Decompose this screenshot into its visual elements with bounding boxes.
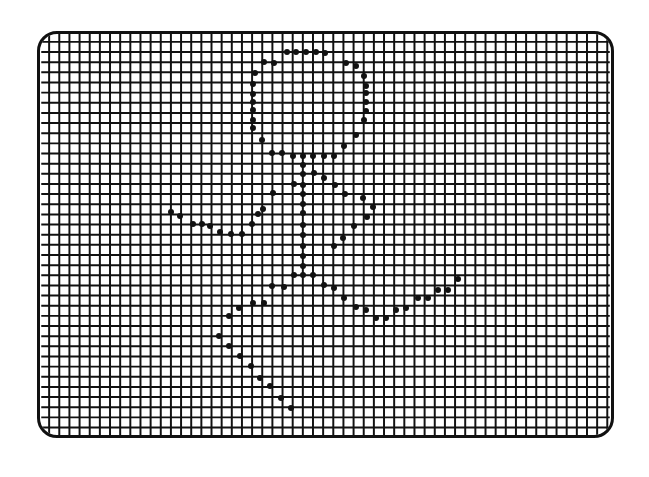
figure-dot [455,276,461,282]
figure-dot [342,191,348,197]
figure-dot [226,343,232,349]
figure-dot [321,175,327,181]
figure-dot [291,272,297,278]
figure-dot [322,50,328,56]
figure-dot [341,295,347,301]
figure-dot [321,282,327,288]
grid-frame [37,31,614,438]
figure-dot [278,395,284,401]
figure-dot [290,153,296,159]
figure-dot [269,150,275,156]
figure-dot [226,313,232,319]
figure-dot [415,295,421,301]
figure-dot [177,213,183,219]
figure-dot [293,49,299,55]
figure-dot [363,108,369,114]
figure-dot [311,170,317,176]
grid-lines [40,34,611,435]
figure-dot [331,285,337,291]
figure-dot [341,143,347,149]
figure-dot [250,300,256,306]
figure-dot [393,307,399,313]
figure-dot [236,305,242,311]
figure-dot [300,201,306,207]
figure-dot [168,209,174,215]
figure-dot [353,304,359,310]
figure-dot [363,99,369,105]
figure-dot [250,91,256,97]
figure-dot [373,315,379,321]
figure-dot [343,60,349,66]
figure-dot [279,150,285,156]
figure-dot [361,73,367,79]
figure-dot [248,363,254,369]
figure-dot [207,223,213,229]
figure-dot [300,272,306,278]
figure-dot [340,235,346,241]
figure-dot [269,283,275,289]
figure-dot [300,243,306,249]
figure-dot [217,229,223,235]
figure-dot [199,221,205,227]
figure-dot [425,295,431,301]
figure-dot [303,49,309,55]
figure-dot [261,300,267,306]
figure-dot [281,284,287,290]
figure-dot [332,182,338,188]
figure-dot [250,99,256,105]
figure-dot [313,49,319,55]
figure-dot [261,59,267,65]
figure-dot [321,153,327,159]
figure-dot [260,206,266,212]
figure-dot [267,383,273,389]
figure-dot [300,191,306,197]
figure-dot [353,63,359,69]
figure-dot [300,171,306,177]
figure-dot [250,117,256,123]
figure-dot [300,263,306,269]
figure-dot [310,272,316,278]
figure-dot [216,333,222,339]
figure-dot [351,223,357,229]
figure-dot [255,211,261,217]
figure-dot [271,60,277,66]
figure-dot [370,204,376,210]
figure-dot [291,181,297,187]
figure-dot [252,70,258,76]
figure-dot [288,405,294,411]
figure-dot [259,137,265,143]
figure-dot [445,287,451,293]
figure-dot [228,231,234,237]
figure-dot [300,162,306,168]
figure-dot [190,221,196,227]
figure-dot [383,315,389,321]
figure-dot [249,221,255,227]
figure-dot [270,190,276,196]
figure-dot [310,153,316,159]
figure-dot [363,307,369,313]
figure-dot [363,83,369,89]
figure-dot [239,231,245,237]
figure-dot [250,125,256,131]
figure-dot [300,232,306,238]
figure-dot [361,117,367,123]
figure-dot [403,305,409,311]
figure-dot [364,214,370,220]
figure-dot [250,81,256,87]
figure-dot [300,222,306,228]
figure-dot [250,107,256,113]
figure-dot [237,353,243,359]
figure-dot [300,253,306,259]
figure-dot [435,287,441,293]
figure-dot [353,132,359,138]
figure-dot [284,49,290,55]
figure-dot [257,375,263,381]
figure-dot [300,210,306,216]
figure-dot [331,243,337,249]
figure-dot [331,153,337,159]
figure-dot [363,90,369,96]
figure-dot [300,182,306,188]
figure-dot [360,195,366,201]
figure-dot [300,153,306,159]
